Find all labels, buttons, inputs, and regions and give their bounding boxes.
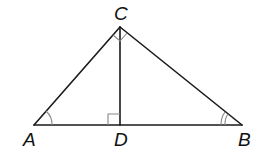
- vertex-label-c: C: [114, 3, 128, 24]
- vertex-label-d: D: [114, 129, 128, 150]
- angle-arc-a: [46, 111, 52, 125]
- right-angle-mark-d: [108, 114, 120, 125]
- angle-arc-b-outer: [221, 112, 225, 125]
- segment-ac: [34, 27, 120, 125]
- vertex-label-b: B: [238, 129, 251, 150]
- vertex-label-a: A: [22, 129, 36, 150]
- triangle-diagram: C A D B: [0, 0, 274, 162]
- segment-cb: [120, 27, 242, 125]
- angle-arc-b-inner: [225, 114, 228, 125]
